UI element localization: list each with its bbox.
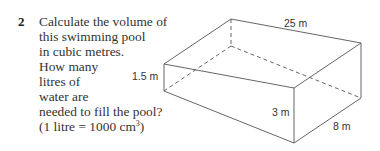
width-label: 8 m xyxy=(333,120,351,132)
pool-diagram: 25 m 1.5 m 3 m 8 m xyxy=(0,0,380,151)
deep-depth-label: 3 m xyxy=(272,106,290,118)
shallow-depth-label: 1.5 m xyxy=(132,70,159,82)
length-label: 25 m xyxy=(284,17,308,29)
